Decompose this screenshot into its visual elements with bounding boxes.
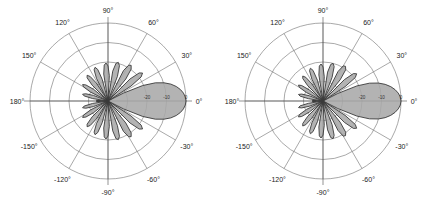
polar-axes-2: 90°60°30°0°-30°-60°-90°-120°-150°180°150…: [216, 0, 431, 202]
radial-tick-label: -20: [143, 95, 150, 100]
angle-tick-label: 120°: [55, 19, 70, 26]
angle-tick-label: -150°: [20, 143, 37, 150]
angle-tick-label: 60°: [363, 19, 374, 26]
radial-tick-label: 0: [184, 95, 187, 100]
angle-tick-label: 30°: [181, 52, 192, 59]
angle-tick-label: 60°: [148, 19, 159, 26]
polar-plot-1: 90°60°30°0°-30°-60°-90°-120°-150°180°150…: [1, 0, 216, 202]
radial-tick-label: 0: [399, 95, 402, 100]
angle-tick-label: 0°: [195, 98, 202, 105]
angle-tick-label: -60°: [362, 176, 375, 183]
radial-tick-label: -10: [378, 95, 385, 100]
radial-tick-label: -10: [163, 95, 170, 100]
angle-tick-label: 90°: [317, 7, 328, 14]
polar-axes-1: 90°60°30°0°-30°-60°-90°-120°-150°180°150…: [1, 0, 216, 202]
radiation-pattern-trace: [298, 63, 401, 138]
angle-tick-label: -30°: [395, 143, 408, 150]
angle-tick-label: -30°: [180, 143, 193, 150]
angle-tick-label: -150°: [235, 143, 252, 150]
angle-tick-label: 30°: [396, 52, 407, 59]
angle-tick-label: 90°: [102, 7, 113, 14]
polar-pattern-figure: 90°60°30°0°-30°-60°-90°-120°-150°180°150…: [0, 0, 431, 202]
angle-tick-label: 150°: [21, 52, 36, 59]
angle-tick-label: -120°: [269, 176, 286, 183]
radial-tick-label: -20: [358, 95, 365, 100]
angle-tick-label: -90°: [101, 189, 114, 196]
angle-tick-label: 150°: [236, 52, 251, 59]
angle-tick-label: 180°: [224, 98, 239, 105]
angle-tick-label: -60°: [147, 176, 160, 183]
angle-tick-label: 180°: [9, 98, 24, 105]
angle-tick-label: 120°: [270, 19, 285, 26]
angle-tick-label: -120°: [54, 176, 71, 183]
angle-tick-label: 0°: [410, 98, 417, 105]
angle-tick-label: -90°: [316, 189, 329, 196]
radiation-pattern-trace: [82, 62, 185, 139]
polar-plot-2: 90°60°30°0°-30°-60°-90°-120°-150°180°150…: [216, 0, 431, 202]
